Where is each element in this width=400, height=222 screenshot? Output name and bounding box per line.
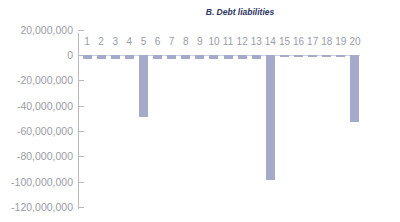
x-tick-label: 11	[223, 36, 233, 47]
y-tick-label: 0	[67, 49, 73, 61]
bar	[238, 55, 247, 59]
bar	[224, 55, 233, 59]
y-tick-mark	[78, 156, 84, 157]
y-tick-label: -40,000,000	[17, 100, 73, 112]
bar	[111, 55, 120, 59]
zero-line	[79, 55, 360, 56]
bar	[167, 55, 176, 59]
bar	[280, 55, 289, 57]
x-tick-label: 2	[98, 36, 104, 47]
bar	[153, 55, 162, 59]
y-tick-mark	[78, 182, 84, 183]
bar	[294, 55, 303, 57]
x-tick-label: 17	[307, 36, 318, 47]
x-tick-label: 4	[127, 36, 133, 47]
bar	[97, 55, 106, 59]
y-tick-mark	[78, 106, 84, 107]
chart-title: B. Debt liabilities	[0, 7, 400, 17]
x-tick-label: 18	[321, 36, 332, 47]
x-tick-label: 8	[183, 36, 189, 47]
bar	[195, 55, 204, 59]
x-tick-label: 10	[208, 36, 219, 47]
bar	[336, 55, 345, 57]
x-tick-label: 13	[251, 36, 262, 47]
x-tick-label: 3	[112, 36, 118, 47]
y-tick-mark	[78, 131, 84, 132]
x-tick-label: 20	[349, 36, 360, 47]
x-tick-label: 19	[335, 36, 346, 47]
y-tick-label: -60,000,000	[17, 125, 73, 137]
x-tick-label: 16	[293, 36, 304, 47]
bar	[209, 55, 218, 59]
x-tick-label: 14	[265, 36, 276, 47]
bar	[139, 55, 148, 117]
y-tick-mark	[78, 80, 84, 81]
x-tick-label: 12	[237, 36, 248, 47]
bar	[350, 55, 359, 122]
y-axis	[78, 33, 79, 209]
bar	[266, 55, 275, 180]
x-tick-label: 5	[141, 36, 147, 47]
y-tick-label: -20,000,000	[17, 74, 73, 86]
bar	[252, 55, 261, 59]
y-tick-label: -100,000,000	[11, 176, 73, 188]
bar	[308, 55, 317, 57]
x-tick-label: 1	[84, 36, 90, 47]
x-tick-label: 15	[279, 36, 290, 47]
bar	[322, 55, 331, 57]
bar	[83, 55, 92, 59]
bar	[181, 55, 190, 59]
y-tick-mark	[78, 30, 84, 31]
x-tick-label: 9	[197, 36, 203, 47]
y-tick-label: 20,000,000	[20, 24, 73, 36]
y-tick-label: -120,000,000	[11, 201, 73, 213]
y-tick-label: -80,000,000	[17, 150, 73, 162]
x-tick-label: 6	[155, 36, 161, 47]
y-tick-mark	[78, 207, 84, 208]
bar	[125, 55, 134, 59]
x-tick-label: 7	[169, 36, 175, 47]
